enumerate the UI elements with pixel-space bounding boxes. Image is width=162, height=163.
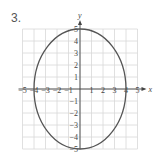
svg-text:−2: −2: [69, 109, 78, 118]
svg-text:3: 3: [74, 49, 78, 58]
svg-text:y: y: [77, 11, 82, 20]
svg-text:3: 3: [113, 86, 117, 95]
ellipse-graph: xy−5−4−3−2−11234554321−1−2−3−4−5: [0, 0, 162, 163]
svg-text:x: x: [148, 85, 153, 94]
svg-text:−4: −4: [69, 133, 78, 142]
svg-text:−2: −2: [53, 86, 62, 95]
svg-text:1: 1: [90, 86, 94, 95]
svg-text:2: 2: [74, 61, 78, 70]
svg-text:−3: −3: [69, 121, 78, 130]
svg-text:2: 2: [101, 86, 105, 95]
svg-text:1: 1: [74, 73, 78, 82]
svg-text:−3: −3: [41, 86, 50, 95]
svg-text:4: 4: [74, 37, 78, 46]
svg-text:−5: −5: [18, 86, 27, 95]
svg-text:5: 5: [136, 86, 140, 95]
svg-text:−1: −1: [69, 97, 78, 106]
svg-text:−1: −1: [64, 86, 73, 95]
